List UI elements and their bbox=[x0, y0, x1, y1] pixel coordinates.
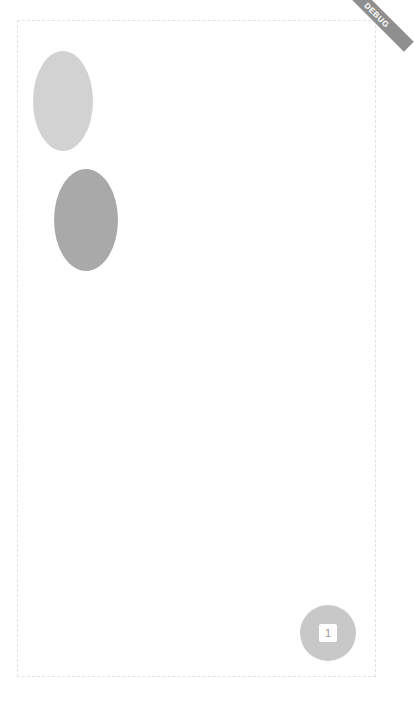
top-ellipse-shape bbox=[33, 51, 93, 151]
fab-badge: 1 bbox=[319, 624, 337, 642]
fab-label: 1 bbox=[325, 627, 331, 639]
floating-action-button[interactable]: 1 bbox=[300, 605, 356, 661]
app-frame: 2 bbox=[17, 20, 376, 677]
bottom-ellipse-shape bbox=[54, 169, 118, 271]
